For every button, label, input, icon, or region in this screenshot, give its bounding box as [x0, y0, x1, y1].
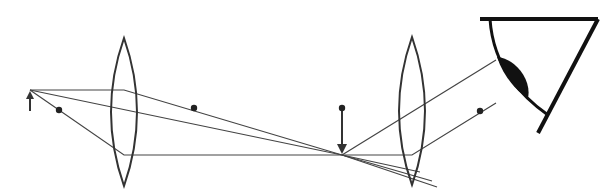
image-arrow-icon	[337, 108, 347, 154]
diagram-canvas	[0, 0, 615, 194]
eyepiece-back-focus-dot	[477, 108, 483, 114]
lenses	[111, 37, 425, 186]
focal-ray	[30, 90, 496, 155]
object-arrow-icon	[26, 91, 34, 111]
eye-lens-shape	[497, 57, 529, 98]
eyepiece-lens	[399, 37, 425, 185]
optical-ray-diagram	[0, 0, 615, 194]
eye-cornea-curve	[490, 19, 548, 115]
parallel-ray	[30, 90, 432, 181]
eyepiece-front-focus-dot	[339, 105, 345, 111]
focal-points	[56, 105, 483, 114]
exit-ray-upper	[342, 60, 496, 155]
lower-converging-ray	[342, 155, 437, 187]
eye-icon	[480, 19, 598, 133]
objective-front-focus-dot	[56, 107, 62, 113]
light-rays	[30, 60, 496, 187]
objective-back-focus-dot	[191, 105, 197, 111]
